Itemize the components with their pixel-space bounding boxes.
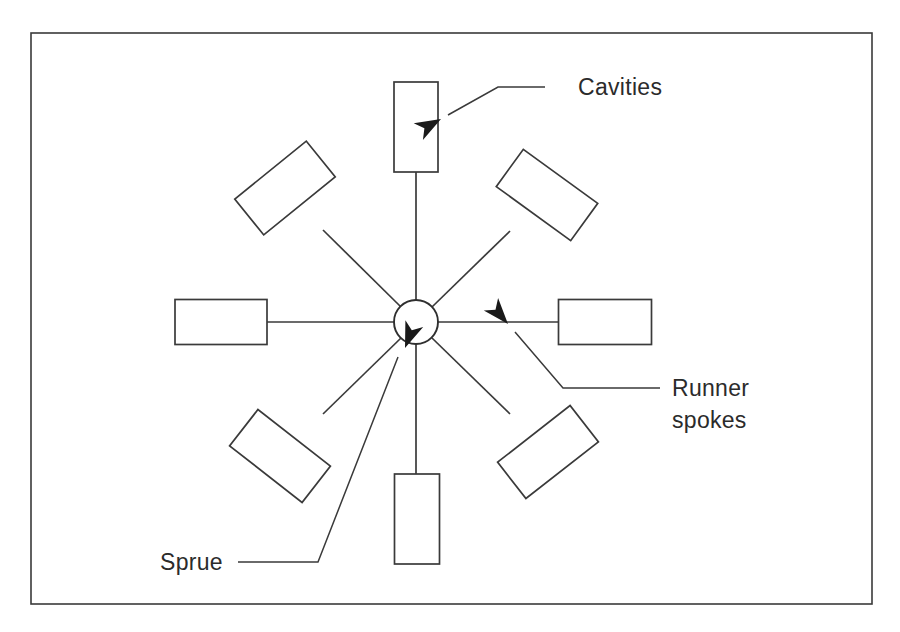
cavity-bottom (395, 474, 440, 564)
label-sprue: Sprue (160, 549, 223, 575)
label-runner-spokes-line1: Runner (672, 375, 749, 401)
cavity-right (559, 300, 652, 345)
runner-layout-svg: Cavities Runner spokes Sprue (0, 0, 900, 632)
spoke-lower-left (323, 338, 401, 414)
leader-line-cavities (448, 87, 545, 115)
figure-border (31, 33, 872, 604)
cavity-lower-right (498, 406, 599, 499)
cavity-left (175, 300, 267, 345)
spoke-upper-left (323, 230, 401, 307)
cavity-lower-left (230, 410, 331, 503)
cavity-upper-right (496, 149, 597, 240)
label-runner-spokes-line2: spokes (672, 407, 747, 433)
spoke-lower-right (432, 338, 510, 414)
spoke-upper-right (432, 231, 510, 307)
diagram-canvas: Cavities Runner spokes Sprue (0, 0, 900, 632)
cavity-upper-left (235, 141, 335, 235)
arrow-head-runner_spokes (484, 298, 508, 324)
sprue-hub-circle (394, 300, 438, 344)
label-cavities: Cavities (578, 74, 662, 100)
